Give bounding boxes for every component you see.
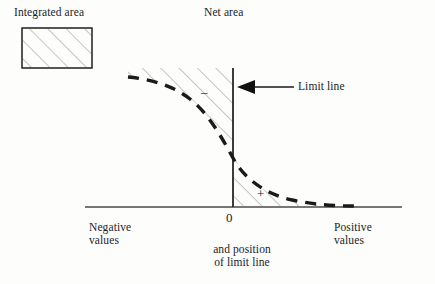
positive-area-hatch: [225, 140, 370, 215]
negative-region-sign: –: [201, 84, 208, 100]
legend-label: Integrated area: [14, 6, 84, 19]
figure-title: Net area: [204, 6, 243, 19]
legend-swatch: [22, 28, 92, 68]
origin-subtitle-label: and position of limit line: [194, 243, 290, 269]
positive-values-label: Positive values: [334, 221, 372, 247]
integration-diagram: Integrated area Net area Limit line Nega…: [0, 0, 435, 284]
negative-values-label: Negative values: [89, 221, 131, 247]
limit-line-callout: [237, 80, 294, 94]
origin-tick-label: 0: [226, 211, 233, 224]
limit-line-label: Limit line: [298, 80, 345, 93]
positive-region-sign: +: [257, 186, 264, 202]
arrow-left-icon: [237, 80, 255, 94]
